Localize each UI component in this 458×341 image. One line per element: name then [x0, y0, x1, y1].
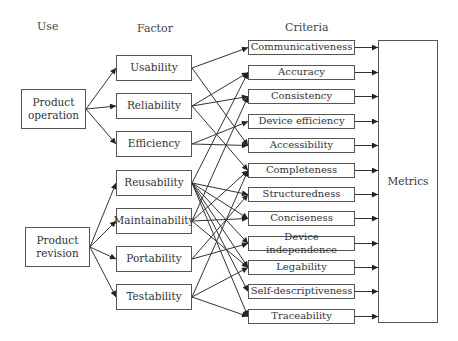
criteria-box-communicativeness-label: Communicativeness — [251, 41, 353, 54]
arrow-line — [90, 247, 116, 297]
criteria-box-completeness: Completeness — [248, 163, 355, 178]
arrow-line — [86, 109, 116, 144]
factor-box-por-label: Portability — [126, 252, 181, 265]
criteria-box-accuracy-label: Accuracy — [278, 66, 325, 79]
use-box-op: Productoperation — [21, 89, 86, 129]
criteria-box-self-descriptiveness: Self-descriptiveness — [248, 284, 355, 299]
factor-box-usa: Usability — [116, 55, 192, 81]
criteria-box-device-independence: Device independence — [248, 236, 355, 251]
factor-box-por: Portability — [116, 246, 192, 272]
arrow-line — [192, 183, 248, 292]
criteria-box-device-independence-label: Device independence — [249, 231, 354, 256]
criteria-box-completeness-label: Completeness — [266, 164, 337, 177]
criteria-box-traceability-label: Traceability — [271, 310, 332, 323]
use-box-rev: Productrevision — [25, 227, 90, 267]
arrow-line — [192, 297, 248, 317]
factor-box-rel: Reliability — [116, 93, 192, 119]
criteria-box-communicativeness: Communicativeness — [248, 40, 355, 55]
factor-box-mai: Maintainability — [116, 208, 192, 234]
arrow-line — [90, 247, 116, 259]
arrow-line — [192, 268, 248, 298]
arrow-line — [86, 68, 116, 109]
criteria-box-legability: Legability — [248, 260, 355, 275]
criteria-box-consistency: Consistency — [248, 89, 355, 104]
criteria-box-device-efficiency: Device efficiency — [248, 114, 355, 129]
arrow-line — [192, 122, 248, 145]
arrow-line — [86, 106, 116, 109]
arrow-line — [90, 221, 116, 247]
criteria-box-conciseness-label: Conciseness — [270, 212, 333, 225]
factor-box-tes-label: Testability — [126, 290, 181, 303]
use-box-label: Productrevision — [36, 234, 78, 260]
criteria-box-self-descriptiveness-label: Self-descriptiveness — [251, 285, 353, 298]
factor-box-reu: Reusability — [116, 170, 192, 196]
criteria-box-accuracy: Accuracy — [248, 65, 355, 80]
factor-box-tes: Testability — [116, 284, 192, 310]
criteria-box-traceability: Traceability — [248, 309, 355, 324]
arrow-line — [192, 219, 248, 222]
factor-box-rel-label: Reliability — [127, 99, 181, 112]
criteria-box-structuredness-label: Structuredness — [263, 188, 341, 201]
arrow-line — [192, 48, 248, 69]
metrics-box-label: Metrics — [388, 175, 429, 188]
arrow-line — [192, 244, 248, 260]
criteria-box-conciseness: Conciseness — [248, 211, 355, 226]
criteria-box-structuredness: Structuredness — [248, 187, 355, 202]
factor-box-mai-label: Maintainability — [114, 214, 195, 227]
arrow-line — [192, 144, 248, 146]
factor-box-reu-label: Reusability — [124, 176, 183, 189]
use-box-label: Productoperation — [28, 96, 79, 122]
metrics-box: Metrics — [378, 40, 438, 323]
arrow-line — [192, 68, 248, 146]
criteria-box-accessibility-label: Accessibility — [270, 139, 333, 152]
arrow-line — [192, 221, 248, 268]
criteria-box-consistency-label: Consistency — [271, 90, 332, 103]
criteria-box-accessibility: Accessibility — [248, 138, 355, 153]
criteria-box-device-efficiency-label: Device efficiency — [258, 115, 344, 128]
factor-box-usa-label: Usability — [130, 61, 177, 74]
arrow-line — [90, 183, 116, 247]
criteria-box-legability-label: Legability — [276, 261, 327, 274]
factor-box-eff-label: Efficiency — [128, 137, 181, 150]
factor-box-eff: Efficiency — [116, 131, 192, 157]
